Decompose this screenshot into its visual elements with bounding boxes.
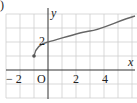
x-tick-neg2: − 2 — [6, 72, 22, 86]
x-tick-4: 4 — [102, 72, 108, 86]
y-tick-2: 2 — [39, 34, 45, 48]
start-point-dot — [32, 54, 36, 58]
graph: ) y x 2 − 2 O 2 4 — [0, 0, 137, 103]
curve — [34, 16, 135, 56]
x-axis-label: x — [127, 55, 134, 69]
x-tick-2: 2 — [73, 72, 79, 86]
grid — [6, 14, 137, 98]
origin-label: O — [37, 72, 46, 86]
panel-label: ) — [0, 0, 4, 12]
y-axis-label: y — [50, 6, 57, 20]
